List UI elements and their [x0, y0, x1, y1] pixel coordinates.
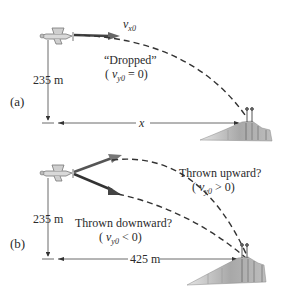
- upward-arrowhead-icon: [108, 154, 122, 163]
- upward-label: Thrown upward?: [179, 166, 261, 180]
- distance-label: x: [138, 116, 145, 130]
- height-label: 235 m: [33, 73, 64, 87]
- height-label: 235 m: [33, 212, 64, 226]
- arrow-left-icon: [58, 121, 64, 125]
- downward-label: Thrown downward?: [75, 216, 172, 230]
- downward-arrowhead-icon: [108, 186, 122, 195]
- panel-label: (a): [10, 94, 24, 109]
- distance-label: 425 m: [130, 252, 161, 266]
- cliff: [187, 257, 266, 285]
- panel-b: Thrown upward? ( vy0 > 0) Thrown downwar…: [10, 154, 266, 285]
- downward-velocity-arrow: [74, 174, 112, 190]
- arrow-left-icon: [58, 257, 64, 261]
- velocity-label: vx0: [123, 17, 136, 33]
- people-icon: [246, 108, 254, 122]
- dropped-trajectory: [74, 35, 245, 115]
- dropped-label: “Dropped”: [104, 53, 157, 67]
- projectile-diagram: vx0 “Dropped” ( vy0 = 0) 235 m (a) x: [0, 0, 286, 294]
- panel-label: (b): [10, 236, 25, 251]
- panel-a: vx0 “Dropped” ( vy0 = 0) 235 m (a) x: [10, 17, 272, 141]
- upward-condition: ( vy0 > 0): [192, 180, 235, 196]
- upward-velocity-arrow: [74, 158, 112, 172]
- downward-condition: ( vy0 < 0): [99, 230, 142, 246]
- dropped-condition: ( vy0 = 0): [105, 67, 148, 83]
- airplane-icon: [40, 165, 73, 181]
- airplane-icon: [40, 28, 73, 44]
